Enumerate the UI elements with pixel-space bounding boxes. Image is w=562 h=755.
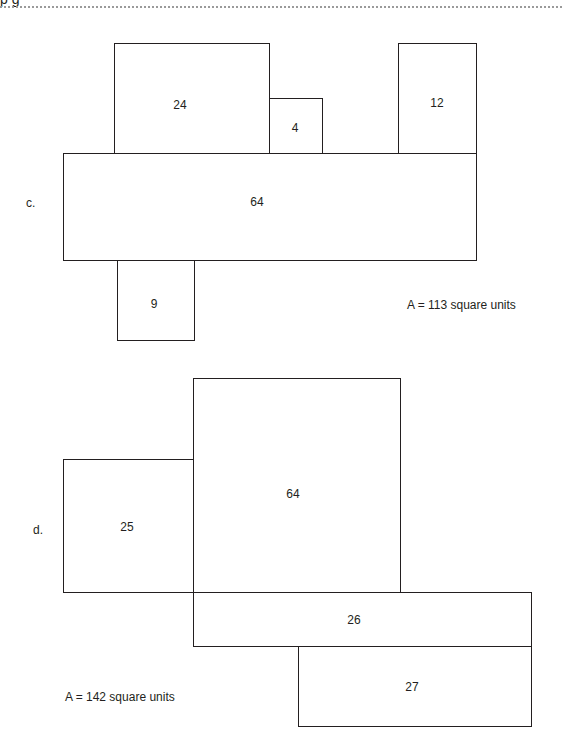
rect-c-9-value: 9 [151,297,158,311]
rect-c-12-value: 12 [430,96,443,110]
rect-c-24-value: 24 [173,98,186,112]
rect-d-26 [193,592,532,647]
rect-d-64 [193,378,401,593]
rect-c-64-value: 64 [250,195,263,209]
part-d-label: d. [33,523,43,537]
rect-d-64-value: 64 [286,487,299,501]
rect-d-27-value: 27 [405,680,418,694]
rect-d-25-value: 25 [120,520,133,534]
rect-c-4-value: 4 [292,121,299,135]
part-c-label: c. [26,196,35,210]
part-d-area: A = 142 square units [65,690,175,704]
rect-c-64 [63,153,477,261]
rect-d-26-value: 26 [347,613,360,627]
part-c-area: A = 113 square units [407,298,516,312]
dotted-divider [0,6,562,8]
rect-c-24 [114,43,270,154]
